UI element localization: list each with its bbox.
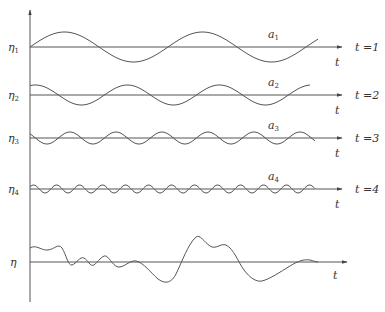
time-label-3: t =3 [355, 132, 379, 145]
wave-row-4: η4a4tt =4 [8, 170, 379, 211]
summed-wave [30, 236, 318, 282]
eta-label-3: η3 [8, 132, 19, 146]
time-label-2: t =2 [355, 89, 379, 102]
component-waves: η1a1tt =1η2a2tt =2η3a3tt =3η4a4tt =4 [8, 28, 379, 211]
time-label-1: t =1 [355, 41, 379, 54]
eta-label-1: η1 [8, 41, 19, 55]
a-label-1: a1 [268, 28, 279, 42]
wave-row-2: η2a2tt =2 [8, 76, 379, 117]
summed-wave-row: η t [10, 236, 347, 282]
t-axis-label-1: t [335, 56, 340, 69]
wave-row-3: η3a3tt =3 [8, 119, 379, 160]
wave-row-1: η1a1tt =1 [8, 28, 379, 69]
a-label-2: a2 [268, 76, 279, 90]
wave-superposition-diagram: η1a1tt =1η2a2tt =2η3a3tt =3η4a4tt =4 η t [0, 0, 385, 312]
eta-label-4: η4 [8, 183, 20, 197]
a-label-4: a4 [268, 170, 280, 184]
t-axis-label-4: t [335, 198, 340, 211]
t-axis-label-2: t [335, 104, 340, 117]
a-label-3: a3 [268, 119, 279, 133]
time-label-4: t =4 [355, 183, 379, 196]
eta-sum-label: η [10, 256, 17, 269]
eta-label-2: η2 [8, 89, 19, 103]
t-label-sum: t [333, 269, 338, 282]
t-axis-label-3: t [335, 147, 340, 160]
